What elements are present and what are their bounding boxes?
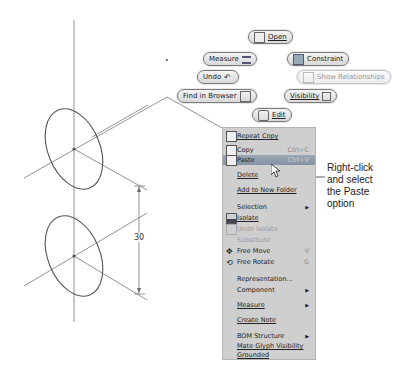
measure-button[interactable]: Measure <box>203 52 257 66</box>
menu-item-free-move[interactable]: ✥ Free Move V <box>223 246 315 256</box>
edit-icon <box>258 110 269 121</box>
free-move-icon: ✥ <box>226 247 235 256</box>
menu-item-repeat-copy[interactable]: Repeat Copy <box>223 131 315 141</box>
open-icon <box>254 32 265 43</box>
constraint-button[interactable]: Constraint <box>287 52 349 66</box>
menu-item-substitute[interactable]: Substitute <box>223 235 315 245</box>
menu-item-selection[interactable]: Selection ▶ <box>223 202 315 212</box>
submenu-arrow-icon: ▶ <box>305 287 309 293</box>
menu-item-representation[interactable]: Representation... <box>223 274 315 284</box>
menu-item-delete[interactable]: Delete <box>223 170 315 180</box>
undo-icon: ↶ <box>224 73 233 82</box>
relationships-icon <box>303 72 314 83</box>
undo-button[interactable]: Undo ↶ <box>197 70 239 84</box>
menu-item-measure[interactable]: Measure ▶ <box>223 300 315 310</box>
menu-item-paste[interactable]: Paste Ctrl+V <box>223 155 315 165</box>
visibility-icon <box>322 92 331 101</box>
edit-button[interactable]: Edit <box>252 108 292 122</box>
menu-item-undo-isolate[interactable]: Undo Isolate <box>223 224 315 234</box>
constraint-icon <box>293 54 304 65</box>
menu-item-add-to-new-folder[interactable]: Add to New Folder <box>223 185 315 195</box>
context-menu: Repeat Copy Copy Ctrl+C Paste Ctrl+V Del… <box>222 127 316 360</box>
submenu-arrow-icon: ▶ <box>305 333 309 339</box>
find-in-browser-icon <box>240 91 251 102</box>
find-in-browser-button[interactable]: Find in Browser <box>177 89 257 103</box>
menu-item-component[interactable]: Component ▶ <box>223 285 315 295</box>
free-rotate-icon: ⟲ <box>226 258 235 267</box>
repeat-copy-icon <box>226 131 237 142</box>
callout-annotation: Right-click and select the Paste option <box>327 162 373 210</box>
open-button[interactable]: Open <box>248 30 293 44</box>
submenu-arrow-icon: ▶ <box>305 302 309 308</box>
menu-item-grounded[interactable]: Grounded <box>223 350 315 360</box>
menu-item-free-rotate[interactable]: ⟲ Free Rotate G <box>223 257 315 267</box>
mouse-cursor-icon <box>271 164 280 178</box>
menu-item-bom-structure[interactable]: BOM Structure ▶ <box>223 331 315 341</box>
show-relationships-button[interactable]: Show Relationships <box>297 70 391 84</box>
visibility-button[interactable]: Visibility <box>284 89 337 103</box>
undo-isolate-icon <box>226 224 237 235</box>
menu-item-copy[interactable]: Copy Ctrl+C <box>223 145 315 155</box>
measure-icon <box>242 56 251 64</box>
menu-item-create-note[interactable]: Create Note <box>223 315 315 325</box>
paste-icon <box>226 155 237 166</box>
dimension-value: 30 <box>134 233 144 242</box>
submenu-arrow-icon: ▶ <box>305 204 309 210</box>
menu-item-isolate[interactable]: Isolate <box>223 213 315 223</box>
isolate-icon <box>226 213 237 224</box>
